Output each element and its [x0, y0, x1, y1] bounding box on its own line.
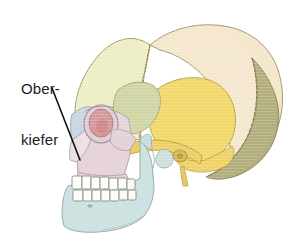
lower-teeth: [73, 190, 136, 201]
maxilla-label: Ober- kiefer: [21, 46, 91, 182]
mental-foramen: [87, 204, 92, 208]
maxilla-label-line2: kiefer: [21, 131, 91, 148]
anatomical-figure: Ober- kiefer: [0, 0, 292, 245]
maxilla-label-line1: Ober-: [21, 80, 91, 97]
